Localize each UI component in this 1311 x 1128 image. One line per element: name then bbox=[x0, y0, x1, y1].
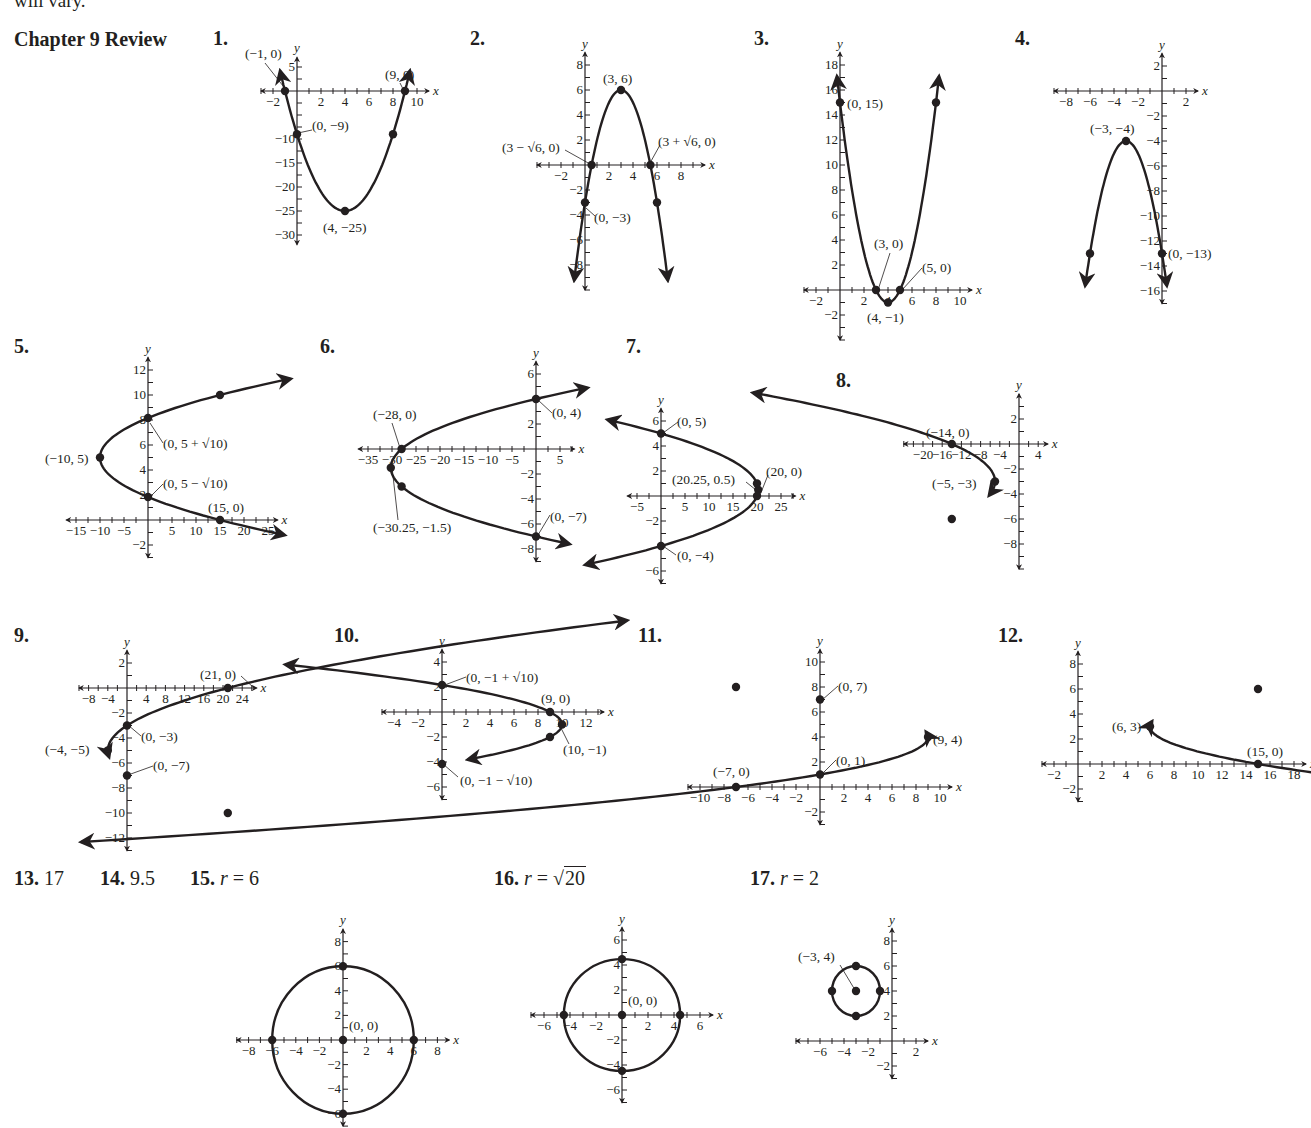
graph-16: xy−6−4−2246642−2−4−6(0, 0) bbox=[531, 911, 723, 1103]
parabola-curve bbox=[585, 420, 758, 565]
point-label: (0, 0) bbox=[349, 1018, 378, 1033]
point-label: (−3, 4) bbox=[798, 949, 835, 964]
x-tick-label: −2 bbox=[312, 1043, 326, 1058]
x-tick-label: 8 bbox=[913, 790, 920, 805]
x-tick-label: 20 bbox=[751, 499, 764, 514]
graph-6: 6.xy−35−30−25−20−15−10−5562−2−4−6−8(−28,… bbox=[320, 335, 587, 562]
x-tick-label: 5 bbox=[682, 499, 689, 514]
data-point bbox=[991, 477, 999, 485]
x-axis-label: x bbox=[708, 157, 715, 172]
y-axis-label: y bbox=[338, 912, 346, 927]
x-tick-label: −4 bbox=[993, 447, 1007, 462]
x-tick-label: 10 bbox=[411, 94, 424, 109]
data-point bbox=[617, 86, 625, 94]
data-point bbox=[1254, 760, 1262, 768]
point-label: (−7, 0) bbox=[713, 764, 750, 779]
y-tick-label: −10 bbox=[105, 805, 125, 820]
x-tick-label: 8 bbox=[1171, 767, 1178, 782]
x-tick-label: −4 bbox=[765, 790, 779, 805]
point-label: (0, −9) bbox=[312, 118, 349, 133]
x-axis-label: x bbox=[955, 779, 962, 794]
y-axis-label: y bbox=[580, 36, 588, 51]
x-axis-label: x bbox=[1051, 436, 1058, 451]
point-label: (−1, 0) bbox=[245, 46, 282, 61]
y-tick-label: 2 bbox=[1070, 731, 1077, 746]
point-label: (0, −3) bbox=[141, 729, 178, 744]
data-point bbox=[144, 414, 152, 422]
point-label: (3, 6) bbox=[603, 71, 632, 86]
data-point bbox=[339, 962, 347, 970]
data-point bbox=[216, 391, 224, 399]
y-tick-label: −2 bbox=[1146, 108, 1160, 123]
point-label: (−4, −5) bbox=[45, 742, 89, 757]
x-tick-label: −8 bbox=[1059, 94, 1073, 109]
graph-2: 2.xy−224688642−2−4−6−8(3, 6)(3 − √6, 0)(… bbox=[470, 27, 716, 290]
x-tick-label: −16 bbox=[932, 447, 953, 462]
y-axis-label: y bbox=[656, 392, 664, 407]
x-tick-label: 2 bbox=[913, 1044, 920, 1059]
y-tick-label: 10 bbox=[133, 387, 146, 402]
graph-12: 12.xy−2246810121416188642−2(6, 3)(15, 0) bbox=[998, 624, 1311, 807]
graph-5: 5.xy−15−10−551015202512108642−2(−10, 5)(… bbox=[14, 335, 291, 558]
y-tick-label: −4 bbox=[426, 754, 440, 769]
problem-number: 7. bbox=[626, 335, 641, 357]
y-tick-label: 16 bbox=[825, 82, 839, 97]
point-label: (0, 0) bbox=[628, 993, 657, 1008]
x-tick-label: 24 bbox=[236, 691, 250, 706]
x-axis-label: x bbox=[931, 1033, 938, 1048]
y-tick-label: −2 bbox=[606, 1032, 620, 1047]
x-tick-label: −8 bbox=[82, 691, 96, 706]
leader-line bbox=[150, 484, 163, 497]
y-tick-label: 2 bbox=[812, 754, 819, 769]
x-tick-label: −4 bbox=[387, 715, 401, 730]
graph-15: xy−8−6−4−224688642−2−4−6(0, 0) bbox=[237, 912, 459, 1126]
point-label: (0, 5 + √10) bbox=[163, 436, 228, 451]
x-tick-label: 6 bbox=[1147, 767, 1154, 782]
data-point bbox=[558, 720, 566, 728]
x-tick-label: 6 bbox=[909, 293, 916, 308]
leader-line bbox=[128, 725, 141, 736]
y-tick-label: −6 bbox=[111, 755, 125, 770]
x-tick-label: 2 bbox=[861, 293, 868, 308]
problem-number: 4. bbox=[1015, 27, 1030, 49]
x-tick-label: 6 bbox=[889, 790, 896, 805]
y-axis-label: y bbox=[887, 912, 895, 927]
y-tick-label: −4 bbox=[327, 1081, 341, 1096]
point-label: (0, −1 + √10) bbox=[466, 670, 538, 685]
x-tick-label: 10 bbox=[954, 293, 967, 308]
x-tick-label: −2 bbox=[266, 94, 280, 109]
problem-number: 11. bbox=[638, 624, 662, 646]
point-label: (10, −1) bbox=[563, 742, 607, 757]
y-tick-label: 6 bbox=[1070, 681, 1077, 696]
point-label: (21, 0) bbox=[200, 667, 236, 682]
parabola-curve bbox=[100, 379, 291, 535]
problem-number: 6. bbox=[320, 335, 335, 357]
data-point bbox=[836, 98, 844, 106]
graph-1: 1.xy−22468105−10−15−20−25−30(−1, 0)(9, 0… bbox=[213, 27, 439, 245]
point-label: (5, 0) bbox=[922, 260, 951, 275]
x-tick-label: 10 bbox=[190, 523, 203, 538]
y-tick-label: 4 bbox=[812, 729, 819, 744]
data-point bbox=[123, 721, 131, 729]
point-label: (−5, −3) bbox=[932, 476, 976, 491]
x-tick-label: 2 bbox=[645, 1018, 652, 1033]
y-tick-label: −2 bbox=[645, 513, 659, 528]
x-tick-label: 2 bbox=[463, 715, 470, 730]
problem-number: 5. bbox=[14, 335, 29, 357]
point-label: (−14, 0) bbox=[926, 425, 970, 440]
y-tick-label: 6 bbox=[140, 437, 147, 452]
graph-10: 10.xy−4−22468101242−2−4−6(0, −1 + √10)(9… bbox=[286, 624, 615, 800]
y-tick-label: −6 bbox=[520, 516, 534, 531]
x-tick-label: −6 bbox=[813, 1044, 827, 1059]
data-point bbox=[397, 482, 405, 490]
data-point bbox=[581, 198, 589, 206]
y-tick-label: −2 bbox=[569, 182, 583, 197]
y-tick-label: 8 bbox=[335, 934, 342, 949]
data-point bbox=[532, 395, 540, 403]
data-point bbox=[546, 708, 554, 716]
x-tick-label: −5 bbox=[630, 499, 644, 514]
y-tick-label: −4 bbox=[1003, 486, 1017, 501]
data-point bbox=[339, 1110, 347, 1118]
y-tick-label: 12 bbox=[825, 132, 838, 147]
data-point bbox=[293, 130, 301, 138]
